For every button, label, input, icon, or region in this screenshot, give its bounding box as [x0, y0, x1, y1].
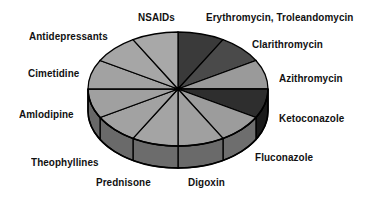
- slice-label: Antidepressants: [29, 30, 108, 42]
- slice-label: Theophyllines: [31, 156, 99, 168]
- slice-label: Digoxin: [188, 176, 225, 188]
- slice-label: Prednisone: [96, 176, 151, 188]
- slice-label: Ketoconazole: [279, 112, 344, 124]
- slice-label: Amlodipine: [19, 108, 74, 120]
- slice-label: Cimetidine: [28, 67, 79, 79]
- slice-label: Fluconazole: [255, 151, 313, 163]
- slice-label: Erythromycin, Troleandomycin: [206, 11, 354, 23]
- slice-label: NSAIDs: [138, 11, 175, 23]
- slice-label: Clarithromycin: [252, 38, 323, 50]
- slice-label: Azithromycin: [279, 72, 343, 84]
